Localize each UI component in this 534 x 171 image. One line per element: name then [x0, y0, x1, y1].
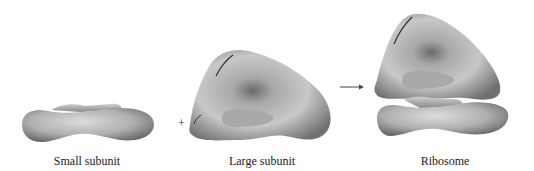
large-subunit-label: Large subunit [229, 154, 295, 169]
ribosome-shape [374, 14, 508, 136]
plus-sign: + [178, 116, 185, 130]
large-subunit-shape [189, 50, 330, 140]
diagram: + Small subunit Large subunit Ribosome [0, 0, 534, 171]
small-subunit-label: Small subunit [54, 154, 120, 169]
arrow [340, 85, 364, 90]
ribosome-label: Ribosome [421, 154, 470, 169]
small-subunit-shape [22, 104, 154, 142]
diagram-art: + [0, 0, 534, 171]
